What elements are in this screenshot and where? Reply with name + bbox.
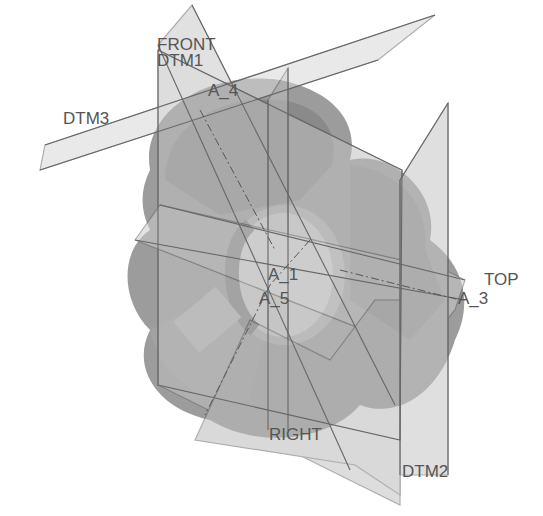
label-a5: A_5 — [259, 289, 289, 308]
label-a3: A_3 — [458, 289, 488, 308]
label-a4: A_4 — [208, 81, 238, 100]
label-dtm1: DTM1 — [157, 51, 203, 70]
cad-viewport[interactable]: FRONT DTM1 DTM3 A_4 A_1 A_5 TOP A_3 RIGH… — [0, 0, 543, 516]
model-graphics: FRONT DTM1 DTM3 A_4 A_1 A_5 TOP A_3 RIGH… — [0, 0, 543, 516]
label-a1: A_1 — [268, 265, 298, 284]
label-top: TOP — [484, 270, 519, 289]
label-dtm2: DTM2 — [402, 462, 448, 481]
label-right: RIGHT — [269, 425, 322, 444]
label-dtm3: DTM3 — [63, 109, 109, 128]
